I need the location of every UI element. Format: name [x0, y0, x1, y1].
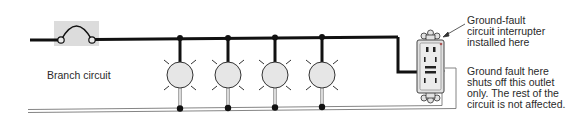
lamp-icon: [306, 34, 338, 110]
lamp-group: [164, 34, 338, 112]
lamp-icon: [259, 35, 291, 111]
gfci-callout-text: Ground-fault circuit interrupter install…: [467, 15, 545, 48]
circuit-breaker-icon: [54, 21, 99, 46]
ground-fault-callout-text: Ground fault here shuts off this outlet …: [467, 66, 565, 110]
gfci-outlet-icon: [417, 30, 444, 103]
lamp-icon: [212, 35, 244, 111]
lamp-icon: [164, 35, 196, 112]
callout-arrow: [443, 24, 465, 37]
branch-circuit-label: Branch circuit: [47, 70, 111, 81]
